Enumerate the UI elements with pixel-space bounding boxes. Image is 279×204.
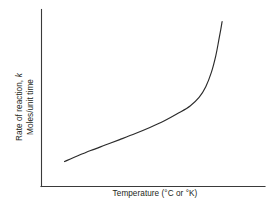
y-axis-label-line1-text: Rate of reaction, bbox=[15, 80, 24, 141]
y-axis-label-line1: Rate of reaction,k bbox=[15, 72, 24, 141]
chart-figure: Temperature (°C or °K) Rate of reaction,… bbox=[0, 0, 279, 204]
y-axis-label-line2: Moles/unit time bbox=[26, 79, 35, 135]
data-curve-rate-of-reaction bbox=[65, 22, 223, 162]
chart-canvas: Temperature (°C or °K) Rate of reaction,… bbox=[0, 0, 279, 204]
y-axis-label-rate-constant-symbol: k bbox=[15, 72, 24, 77]
x-axis-label: Temperature (°C or °K) bbox=[113, 189, 198, 198]
